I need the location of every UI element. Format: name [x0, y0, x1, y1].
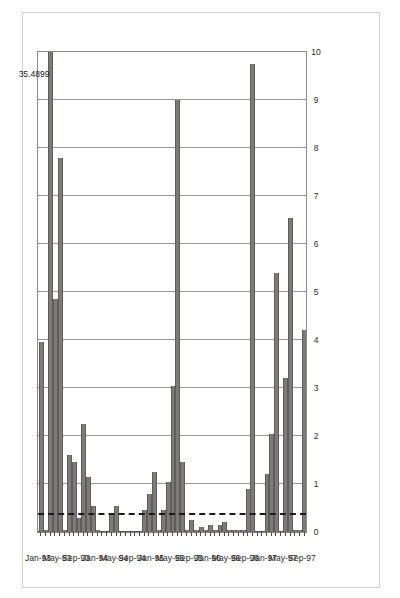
category-tickmark: [87, 532, 88, 536]
category-tick-Jan-95: Jan-95: [146, 535, 156, 581]
bar-chart: 012345678910Jan-93May-93Sep-93Jan-94May-…: [31, 35, 349, 575]
category-tickmark: [50, 532, 51, 536]
category-tickmark: [69, 532, 70, 536]
category-tickmark: [167, 532, 168, 536]
category-tickmark: [144, 532, 145, 536]
bar: [58, 158, 63, 532]
bar: [274, 273, 279, 532]
category-tickmark: [214, 532, 215, 536]
bar: [152, 472, 157, 532]
category-tick-Sep-97: Sep-97: [297, 535, 307, 581]
value-tick-label: 6: [314, 239, 319, 249]
category-tickmark: [210, 532, 211, 536]
bar: [114, 506, 119, 532]
category-tickmark: [219, 532, 220, 536]
bar: [302, 330, 307, 532]
category-tickmark: [116, 532, 117, 536]
value-tick-label: 7: [314, 191, 319, 201]
reference-line: [38, 513, 306, 515]
category-tickmark: [196, 532, 197, 536]
category-tickmark: [200, 532, 201, 536]
value-tick-0: 0: [311, 520, 321, 544]
category-tickmark: [134, 532, 135, 536]
gridline-value-7: [38, 195, 306, 196]
value-tick-2: 2: [311, 424, 321, 448]
category-tickmark: [285, 532, 286, 536]
category-tickmark: [120, 532, 121, 536]
category-tickmark: [271, 532, 272, 536]
category-tickmark: [106, 532, 107, 536]
category-tick-Sep-96: Sep-96: [240, 535, 250, 581]
category-tickmark: [261, 532, 262, 536]
category-tickmark: [205, 532, 206, 536]
bar: [39, 342, 44, 532]
bar: [288, 218, 293, 532]
category-tickmark: [54, 532, 55, 536]
category-tickmark: [247, 532, 248, 536]
category-tickmark: [158, 532, 159, 536]
category-tickmark: [92, 532, 93, 536]
category-tickmark: [294, 532, 295, 536]
category-tickmark: [228, 532, 229, 536]
gridline-value-10: [38, 51, 306, 52]
category-tick-label: Sep-97: [288, 553, 315, 563]
category-tick-Sep-93: Sep-93: [71, 535, 81, 581]
gridline-value-4: [38, 339, 306, 340]
category-tickmark: [78, 532, 79, 536]
category-tickmark: [181, 532, 182, 536]
gridline-value-9: [38, 99, 306, 100]
category-tickmark: [172, 532, 173, 536]
value-tick-label: 3: [314, 383, 319, 393]
category-tickmark: [186, 532, 187, 536]
category-tickmark: [83, 532, 84, 536]
value-tick-6: 6: [311, 232, 321, 256]
category-tickmark: [139, 532, 140, 536]
bar-value-annotation-text: 35.4899: [19, 69, 50, 79]
value-tick-5: 5: [311, 280, 321, 304]
category-tickmark: [290, 532, 291, 536]
category-tickmark: [233, 532, 234, 536]
value-tick-label: 9: [314, 95, 319, 105]
category-tick-Jan-97: Jan-97: [259, 535, 269, 581]
value-tick-3: 3: [311, 376, 321, 400]
category-tickmark: [252, 532, 253, 536]
category-tickmark: [224, 532, 225, 536]
category-tick-Sep-94: Sep-94: [127, 535, 137, 581]
category-tickmark: [130, 532, 131, 536]
category-tickmark: [275, 532, 276, 536]
gridline-value-8: [38, 147, 306, 148]
category-tickmark: [191, 532, 192, 536]
value-tick-label: 8: [314, 143, 319, 153]
category-tick-Sep-95: Sep-95: [184, 535, 194, 581]
value-tick-label: 5: [314, 287, 319, 297]
value-tick-10: 10: [311, 40, 321, 64]
category-tick-May-96: May-96: [221, 535, 231, 581]
value-tick-8: 8: [311, 136, 321, 160]
category-tickmark: [163, 532, 164, 536]
gridline-value-5: [38, 291, 306, 292]
category-tick-May-93: May-93: [52, 535, 62, 581]
value-tick-9: 9: [311, 88, 321, 112]
bar: [250, 64, 255, 532]
category-tickmark: [45, 532, 46, 536]
value-tick-label: 2: [314, 431, 319, 441]
category-tickmark: [177, 532, 178, 536]
value-tick-label: 4: [314, 335, 319, 345]
category-tickmark: [101, 532, 102, 536]
value-tick-label: 1: [314, 479, 319, 489]
category-tickmark: [125, 532, 126, 536]
gridline-value-6: [38, 243, 306, 244]
plot-area: [37, 51, 307, 533]
category-tick-May-97: May-97: [278, 535, 288, 581]
value-tick-7: 7: [311, 184, 321, 208]
category-tickmark: [153, 532, 154, 536]
bar: [180, 462, 185, 532]
category-tickmark: [64, 532, 65, 536]
value-tick-label: 0: [314, 527, 319, 537]
category-tickmark: [243, 532, 244, 536]
category-tick-May-94: May-94: [109, 535, 119, 581]
category-tickmark: [97, 532, 98, 536]
category-tick-Jan-94: Jan-94: [90, 535, 100, 581]
category-tickmark: [238, 532, 239, 536]
category-tickmark: [40, 532, 41, 536]
